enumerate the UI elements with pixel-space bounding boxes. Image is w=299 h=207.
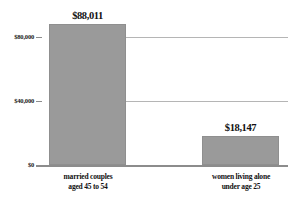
bar-chart: $80,000 $40,000 $0 $88,011 $18,147 marri… [0,0,299,207]
category-label-1-line1: married couples [42,172,134,182]
x-axis-baseline [36,165,288,167]
y-axis-tick-40000 [36,101,42,102]
y-axis-label-80000: $80,000 [2,33,34,40]
gridline-80000 [126,37,288,38]
category-label-2-line2: under age 25 [195,182,287,192]
category-label-2: women living alone under age 25 [195,172,287,192]
category-label-1-line2: aged 45 to 54 [42,182,134,192]
bar-value-label-1: $88,011 [49,10,126,21]
bar-married-couples [49,24,126,165]
category-label-2-line1: women living alone [195,172,287,182]
category-label-1: married couples aged 45 to 54 [42,172,134,192]
y-axis-tick-80000 [36,37,42,38]
bar-value-label-2: $18,147 [202,122,279,133]
y-axis-label-40000: $40,000 [2,97,34,104]
plot-area: $80,000 $40,000 $0 $88,011 $18,147 marri… [0,0,299,207]
gridline-40000 [126,101,288,102]
bar-women-living-alone [202,136,279,165]
y-axis-label-0: $0 [2,161,34,168]
